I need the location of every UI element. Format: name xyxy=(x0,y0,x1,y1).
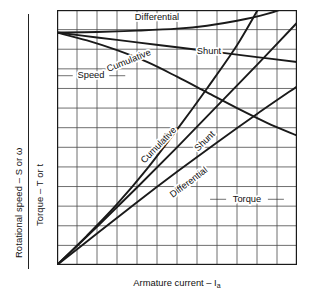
curve-label-cumulative: Cumulative xyxy=(139,125,179,165)
annotation-speed-group-speed: SpeedSpeed xyxy=(57,70,125,80)
x-axis-label-text: Armature current – I xyxy=(133,277,216,288)
curve-label-differential: Differential xyxy=(135,12,179,22)
curve-label-torque: Torque xyxy=(233,194,261,204)
plot-area: DifferentialDifferentialShuntShuntCumula… xyxy=(57,10,297,265)
annotation-torque-cumulative-cumulative: CumulativeCumulative xyxy=(139,125,179,165)
curve-label-shunt: Shunt xyxy=(192,129,217,153)
figure-container: Rotational speed – S or ω Torque – T or … xyxy=(0,0,313,299)
curve-label-differential: Differential xyxy=(168,165,209,200)
annotation-torque-differential-differential: DifferentialDifferential xyxy=(168,165,209,200)
chart-svg: DifferentialDifferentialShuntShuntCumula… xyxy=(57,10,297,265)
annotation-speed-differential-differential: DifferentialDifferential xyxy=(135,12,179,22)
y-axis-group: Rotational speed – S or ω Torque – T or … xyxy=(0,0,56,272)
annotation-torque-shunt-shunt: ShuntShunt xyxy=(192,129,217,153)
curve-label-shunt: Shunt xyxy=(197,46,222,56)
y-axis-outer-label: Rotational speed – S or ω xyxy=(13,148,24,258)
grid-layer xyxy=(57,10,297,265)
y-axis-rule xyxy=(28,14,29,269)
y-axis-inner-label: Torque – T or t xyxy=(34,164,45,226)
annotation-speed-shunt-shunt: ShuntShunt xyxy=(197,46,222,56)
x-axis-label-subscript: a xyxy=(217,282,221,289)
x-axis-label: Armature current – Ia xyxy=(57,277,297,289)
curve-label-speed: Speed xyxy=(78,70,105,80)
annotation-torque-group-torque: TorqueTorque xyxy=(210,194,284,204)
